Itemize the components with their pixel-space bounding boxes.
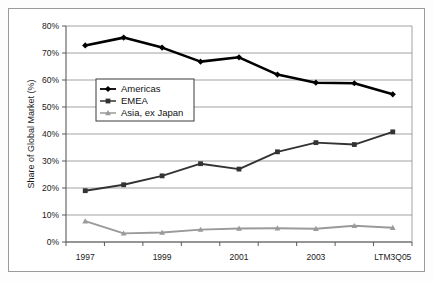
y-axis-tick-labels: 0%10%20%30%40%50%60%70%80% <box>42 21 59 247</box>
data-point <box>313 80 319 86</box>
x-axis-tick-labels: 1997199920012003LTM3Q05 <box>76 252 412 262</box>
data-point <box>390 91 396 97</box>
data-point <box>390 129 395 134</box>
x-axis-ticks <box>66 242 412 246</box>
x-tick-label: LTM3Q05 <box>374 252 411 262</box>
y-tick-label: 20% <box>42 183 59 193</box>
y-tick-label: 30% <box>42 156 59 166</box>
x-tick-label: 2001 <box>230 252 249 262</box>
data-point <box>237 167 242 172</box>
y-axis-title: Share of Global Market (%) <box>26 79 36 188</box>
x-tick-label: 2003 <box>306 252 325 262</box>
y-tick-label: 60% <box>42 75 59 85</box>
data-point <box>275 149 280 154</box>
series-asia-ex-japan <box>82 218 395 235</box>
data-series-group <box>82 35 396 236</box>
data-point <box>198 161 203 166</box>
data-point <box>82 42 88 48</box>
legend-swatch-marker <box>106 99 111 104</box>
data-point <box>352 142 357 147</box>
data-point <box>121 35 127 41</box>
chart-figure: 0%10%20%30%40%50%60%70%80% 1997199920012… <box>0 0 433 281</box>
y-tick-label: 40% <box>42 129 59 139</box>
y-tick-label: 0% <box>47 237 60 247</box>
y-tick-label: 50% <box>42 102 59 112</box>
data-point <box>351 80 357 86</box>
y-tick-label: 80% <box>42 21 59 31</box>
y-tick-label: 70% <box>42 48 59 58</box>
data-point <box>83 188 88 193</box>
data-point <box>121 182 126 187</box>
y-axis-title-text: Share of Global Market (%) <box>26 79 36 188</box>
x-tick-label: 1999 <box>153 252 172 262</box>
x-tick-label: 1997 <box>76 252 95 262</box>
data-point <box>313 140 318 145</box>
legend-label: Americas <box>121 83 161 94</box>
line-chart: 0%10%20%30%40%50%60%70%80% 1997199920012… <box>0 0 433 281</box>
y-axis-ticks <box>62 26 66 242</box>
legend-label: EMEA <box>121 95 149 106</box>
data-point <box>160 173 165 178</box>
y-tick-label: 10% <box>42 210 59 220</box>
legend-label: Asia, ex Japan <box>121 107 183 118</box>
chart-legend[interactable]: AmericasEMEAAsia, ex Japan <box>96 79 194 121</box>
